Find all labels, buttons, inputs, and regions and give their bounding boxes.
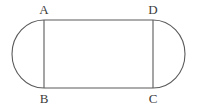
vertex-label-b: B (40, 91, 49, 106)
vertex-label-c: C (149, 91, 158, 106)
stadium-outline-path (12, 20, 185, 88)
stadium-diagram-svg: A D B C (0, 0, 198, 108)
vertex-label-d: D (148, 2, 157, 17)
geometry-figure: A D B C (0, 0, 198, 108)
vertex-label-a: A (39, 2, 49, 17)
